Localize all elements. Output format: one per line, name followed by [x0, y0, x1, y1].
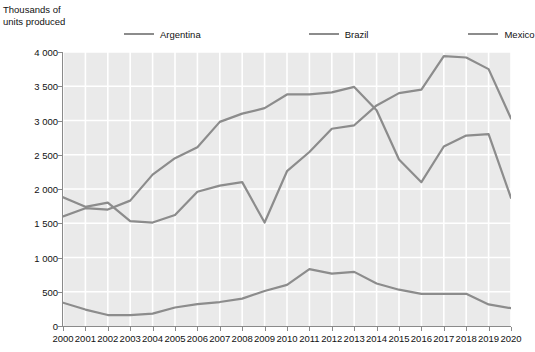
- x-tick-label: 2020: [500, 333, 521, 344]
- x-tick-label: 2005: [164, 333, 185, 344]
- y-axis-caption: Thousands of units produced: [3, 4, 73, 27]
- legend-swatch-argentina: [124, 33, 154, 36]
- x-tick-mark: [444, 327, 445, 331]
- y-tick-label: 1 000: [34, 252, 58, 263]
- y-tick-label: 4 000: [34, 47, 58, 58]
- legend-label-mexico: Mexico: [504, 29, 534, 40]
- x-tick-label: 2004: [142, 333, 163, 344]
- y-tick-label: 3 000: [34, 115, 58, 126]
- x-tick-mark: [85, 327, 86, 331]
- x-tick-label: 2016: [411, 333, 432, 344]
- x-tick-mark: [265, 327, 266, 331]
- x-tick-label: 2010: [276, 333, 297, 344]
- y-tick-label: 3 500: [34, 81, 58, 92]
- x-tick-mark: [197, 327, 198, 331]
- x-tick-label: 2009: [254, 333, 275, 344]
- x-tick-label: 2011: [299, 333, 319, 344]
- x-tick-mark: [399, 327, 400, 331]
- y-tick-label: 2 000: [34, 184, 58, 195]
- x-tick-mark: [130, 327, 131, 331]
- x-tick-label: 2017: [433, 333, 454, 344]
- x-tick-mark: [108, 327, 109, 331]
- plot-canvas: [63, 52, 511, 326]
- x-axis-tick-labels: 2000200120022003200420052006200720082009…: [63, 333, 511, 349]
- x-tick-mark: [63, 327, 64, 331]
- x-tick-label: 2015: [388, 333, 409, 344]
- x-tick-mark: [287, 327, 288, 331]
- x-tick-label: 2003: [120, 333, 141, 344]
- chart-legend: Argentina Brazil Mexico: [120, 26, 460, 42]
- x-tick-mark: [354, 327, 355, 331]
- legend-item-argentina: Argentina: [124, 29, 201, 40]
- x-tick-label: 2008: [232, 333, 253, 344]
- x-tick-mark: [332, 327, 333, 331]
- legend-item-brazil: Brazil: [309, 29, 369, 40]
- x-tick-mark: [489, 327, 490, 331]
- y-axis-tick-labels: 05001 0001 5002 0002 5003 0003 5004 000: [0, 52, 58, 326]
- y-tick-label: 1 500: [34, 218, 58, 229]
- x-tick-mark: [511, 327, 512, 331]
- legend-swatch-mexico: [468, 33, 498, 36]
- x-tick-label: 2001: [75, 333, 96, 344]
- x-tick-label: 2007: [209, 333, 230, 344]
- x-tick-mark: [309, 327, 310, 331]
- x-tick-label: 2019: [478, 333, 499, 344]
- legend-swatch-brazil: [309, 33, 339, 36]
- x-tick-label: 2000: [52, 333, 73, 344]
- x-tick-mark: [220, 327, 221, 331]
- x-tick-label: 2012: [321, 333, 342, 344]
- x-tick-label: 2013: [344, 333, 365, 344]
- x-tick-mark: [421, 327, 422, 331]
- x-tick-mark: [377, 327, 378, 331]
- x-tick-mark: [175, 327, 176, 331]
- x-tick-mark: [242, 327, 243, 331]
- legend-label-argentina: Argentina: [160, 29, 201, 40]
- x-tick-label: 2018: [456, 333, 477, 344]
- x-axis-ticks: [63, 327, 511, 332]
- legend-item-mexico: Mexico: [468, 29, 534, 40]
- x-tick-label: 2014: [366, 333, 387, 344]
- y-tick-label: 2 500: [34, 149, 58, 160]
- x-tick-mark: [466, 327, 467, 331]
- y-tick-label: 500: [42, 286, 58, 297]
- legend-label-brazil: Brazil: [345, 29, 369, 40]
- x-tick-mark: [153, 327, 154, 331]
- x-tick-label: 2002: [97, 333, 118, 344]
- x-tick-label: 2006: [187, 333, 208, 344]
- plot-area: [63, 52, 511, 326]
